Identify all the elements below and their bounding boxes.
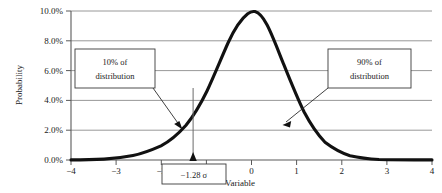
y-axis-title: Probability: [14, 65, 24, 105]
y-tick-label-2pct: 2.0%: [44, 125, 63, 135]
x-tick-label-2: 2: [340, 166, 345, 176]
annotation-left-arrowhead: [174, 121, 182, 130]
x-tick-label-4: 4: [430, 166, 435, 176]
normal-distribution-chart: 10.0% 8.0% 6.0% 4.0% 2.0% 0.0% Probabili…: [0, 0, 442, 193]
y-tick-label-0pct: 0.0%: [44, 155, 63, 165]
x-tick-label--3: −3: [111, 166, 121, 176]
sigma-callout-text: −1.28 σ: [181, 170, 208, 180]
sigma-marker-group: [189, 88, 196, 161]
annotation-left-line2: distribution: [95, 71, 135, 81]
annotation-left-line1: 10% of: [103, 57, 128, 67]
x-tick-label--4: −4: [66, 166, 76, 176]
y-tick-label-6pct: 6.0%: [44, 66, 63, 76]
annotation-right-line1: 90% of: [357, 57, 382, 67]
x-tick-label-0: 0: [249, 166, 254, 176]
y-tick-label-4pct: 4.0%: [44, 95, 63, 105]
chart-canvas: 10.0% 8.0% 6.0% 4.0% 2.0% 0.0% Probabili…: [0, 0, 442, 193]
annotation-left-leader: [153, 88, 180, 126]
annotation-sigma-value: −1.28 σ: [162, 164, 226, 184]
annotation-right-line2: distribution: [350, 71, 390, 81]
annotation-left-box: [75, 49, 155, 88]
annotation-left-tail: 10% of distribution: [75, 49, 183, 130]
x-tick-label-1: 1: [294, 166, 299, 176]
x-tick-label-3: 3: [385, 166, 390, 176]
annotation-right-arrowhead: [283, 121, 292, 127]
y-tick-label-10pct: 10.0%: [40, 6, 64, 16]
annotation-right-box: [328, 49, 411, 88]
y-tick-label-8pct: 8.0%: [44, 36, 63, 46]
x-axis: −4 −3 −2 −1 0 1 2 3 4 Variable: [66, 160, 435, 188]
annotation-right-body: 90% of distribution: [283, 49, 412, 127]
sigma-marker-arrowhead: [189, 152, 196, 161]
x-axis-title: Variable: [225, 178, 255, 188]
y-axis: 10.0% 8.0% 6.0% 4.0% 2.0% 0.0% Probabili…: [14, 6, 71, 165]
